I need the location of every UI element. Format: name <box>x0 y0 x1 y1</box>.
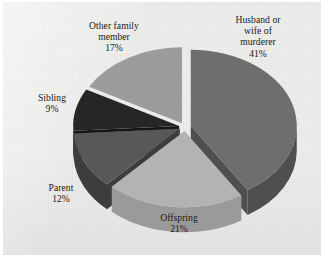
slice-label-sibling: Sibling 9% <box>17 92 87 114</box>
pie-chart: Husband or wife of murderer 41% Other fa… <box>0 0 332 263</box>
slice-label-line-1: Other family <box>62 20 166 31</box>
slice-label-line-1: Parent <box>26 182 96 193</box>
slice-label-line-3: murderer <box>206 36 310 47</box>
slice-value-parent: 12% <box>26 193 96 204</box>
slice-label-other-family-member: Other family member 17% <box>62 20 166 54</box>
slice-label-line-1: Husband or <box>206 14 310 25</box>
slice-value-offspring: 21% <box>133 223 225 234</box>
pie-slice-groups <box>73 47 297 232</box>
slice-label-parent: Parent 12% <box>26 182 96 204</box>
slice-value-other-family-member: 17% <box>62 42 166 53</box>
slice-label-line-2: wife of <box>206 25 310 36</box>
slice-label-line-1: Offspring <box>133 212 225 223</box>
slice-value-sibling: 9% <box>17 103 87 114</box>
chart-page: Husband or wife of murderer 41% Other fa… <box>0 0 332 263</box>
slice-label-husband-or-wife: Husband or wife of murderer 41% <box>206 14 310 59</box>
slice-label-line-2: member <box>62 31 166 42</box>
slice-label-line-1: Sibling <box>17 92 87 103</box>
slice-label-offspring: Offspring 21% <box>133 212 225 234</box>
slice-value-husband-or-wife: 41% <box>206 48 310 59</box>
